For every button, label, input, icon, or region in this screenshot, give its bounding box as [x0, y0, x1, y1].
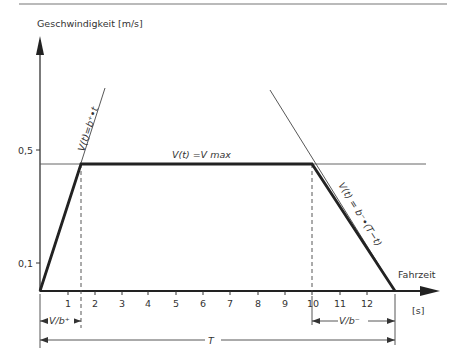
svg-text:3: 3 [119, 298, 125, 309]
svg-text:5: 5 [173, 298, 179, 309]
x-tick-labels: 1 2 3 4 5 6 7 8 9 10 11 12 [65, 298, 373, 309]
x-axis-label: Fahrzeit [398, 269, 436, 280]
decel-time-label: V/b⁻ [339, 315, 360, 326]
x-axis-unit: [s] [412, 305, 424, 316]
y-axis-label: Geschwindigkeit [m/s] [37, 18, 143, 29]
y-tick-0-1: 0,1 [18, 258, 33, 269]
y-tick-0-5: 0,5 [18, 145, 33, 156]
svg-text:2: 2 [92, 298, 98, 309]
velocity-time-diagram: Geschwindigkeit [m/s] 0,5 0,1 Fahrzeit [… [0, 0, 459, 364]
plateau-formula: V(t) =V max [172, 149, 231, 160]
svg-text:11: 11 [334, 298, 346, 309]
svg-text:7: 7 [227, 298, 233, 309]
svg-text:1: 1 [65, 298, 71, 309]
svg-text:10: 10 [307, 298, 319, 309]
accel-formula: V(t)=b⁺•t [75, 104, 100, 152]
x-axis-arrow-icon [420, 286, 440, 296]
svg-text:6: 6 [200, 298, 206, 309]
svg-text:4: 4 [145, 298, 151, 309]
accel-time-label: V/b⁺ [49, 315, 70, 326]
svg-text:8: 8 [255, 298, 261, 309]
y-axis-arrow-icon [36, 36, 44, 55]
svg-text:12: 12 [361, 298, 373, 309]
svg-text:9: 9 [282, 298, 288, 309]
